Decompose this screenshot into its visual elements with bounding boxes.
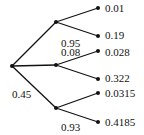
- leaf-value: 0.0315: [105, 88, 135, 99]
- leaf-node: [96, 120, 100, 124]
- branch-bottom-1: [56, 93, 98, 108]
- branch-label-0-93: 0.93: [61, 122, 80, 133]
- leaf-node: [96, 34, 100, 38]
- branch-middle-2: [56, 65, 98, 79]
- branch-bottom-2: [56, 108, 98, 122]
- node-middle: [54, 63, 58, 67]
- node-bottom: [54, 106, 58, 110]
- branch-label-0-45: 0.45: [12, 89, 31, 100]
- leaf-value: 0.01: [105, 3, 124, 14]
- leaf-node: [96, 6, 100, 10]
- branch-root-bottom: [12, 66, 56, 108]
- tree-diagram: [0, 0, 144, 135]
- branch-top-2: [56, 22, 98, 36]
- branch-root-top: [12, 22, 56, 66]
- branch-root-middle: [12, 65, 56, 66]
- leaf-node: [96, 91, 100, 95]
- leaf-value: 0.4185: [105, 117, 135, 128]
- leaf-node: [96, 77, 100, 81]
- root-node: [10, 64, 14, 68]
- branch-top-1: [56, 8, 98, 22]
- leaf-node: [96, 49, 100, 53]
- leaf-value: 0.19: [105, 30, 124, 41]
- leaf-value: 0.028: [105, 47, 130, 58]
- leaf-value: 0.322: [105, 73, 130, 84]
- branch-label-0-08: 0.08: [61, 47, 80, 58]
- node-top: [54, 20, 58, 24]
